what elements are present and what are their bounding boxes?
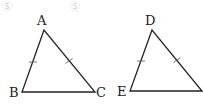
triangle-def: D E [117,13,202,99]
vertex-label-b: B [9,85,19,100]
triangle-figure: Ⓢ Ⓢ A B C D E [0,0,203,104]
vertex-label-a: A [36,13,47,28]
vertex-label-d: D [145,13,155,28]
triangle-abc: A B C [9,13,106,100]
vertex-label-c: C [96,85,106,100]
watermark-symbol-1: Ⓢ [2,1,12,12]
watermark-symbol-2: Ⓢ [70,1,80,12]
vertex-label-e: E [117,84,127,99]
